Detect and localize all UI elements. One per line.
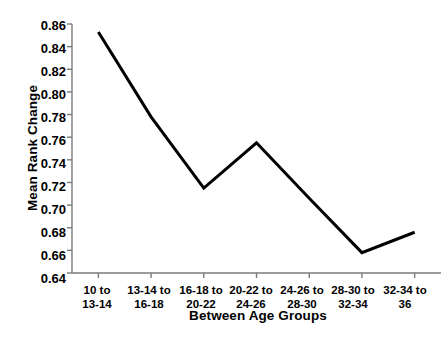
- x-axis-ticks: [98, 273, 414, 278]
- data-series-line: [98, 32, 414, 253]
- axis-spines: [72, 24, 441, 273]
- y-axis-ticks: [67, 24, 72, 273]
- plot-area: [0, 0, 444, 340]
- chart-container: Mean Rank Change Between Age Groups 0.86…: [0, 0, 444, 340]
